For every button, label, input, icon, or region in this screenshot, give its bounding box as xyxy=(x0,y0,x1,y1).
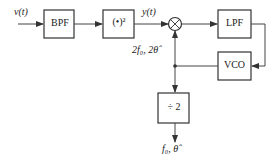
bpf-label: BPF xyxy=(47,17,73,28)
divider-label: ÷ 2 xyxy=(159,101,189,112)
lpf-label: LPF xyxy=(219,17,250,28)
output-label: f₀, θ̂ xyxy=(162,143,178,154)
square-label: (•)² xyxy=(104,16,134,27)
y-signal-label: y(t) xyxy=(142,6,156,17)
vco-output-label: 2f₀, 2θ̂ xyxy=(132,44,158,55)
input-label: v(t) xyxy=(14,6,28,17)
vco-label: VCO xyxy=(219,59,250,70)
